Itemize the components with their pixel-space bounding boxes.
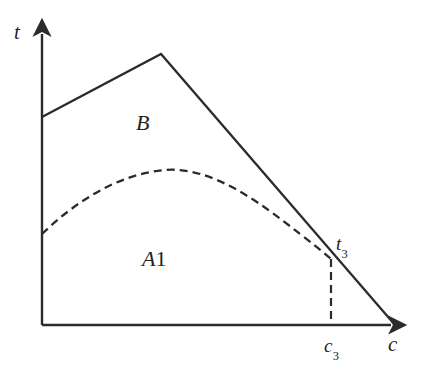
solid-boundary-curve [42, 54, 395, 325]
t3-base: t [336, 233, 341, 254]
t3-subscript: 3 [342, 247, 348, 261]
dashed-arch-curve [42, 170, 331, 259]
c-axis-label: c [388, 334, 397, 355]
region-label-b: B [136, 112, 149, 134]
t-axis-label: t [14, 22, 20, 43]
region-label-a1-numeral: 1 [155, 246, 166, 271]
t3-marker-label: t3 [336, 234, 348, 257]
c3-marker-label: c3 [324, 336, 339, 359]
diagram-figure: t c B A1 t3 c3 [0, 0, 428, 373]
c3-base: c [324, 335, 332, 356]
c3-subscript: 3 [333, 349, 339, 363]
region-label-a1: A1 [142, 248, 166, 270]
diagram-canvas [0, 0, 428, 373]
region-label-a1-italic: A [142, 246, 155, 271]
